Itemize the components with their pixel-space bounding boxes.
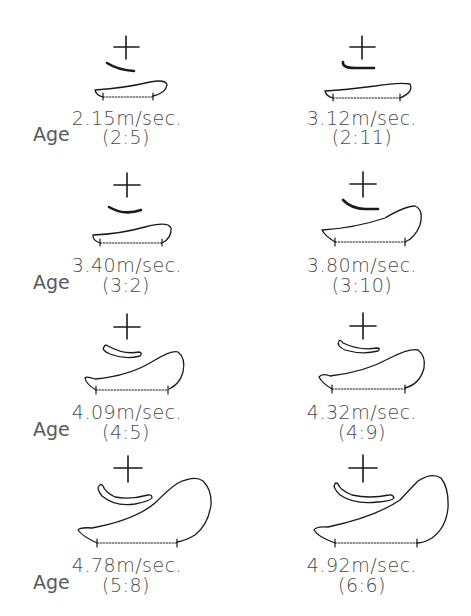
cross-icon	[350, 36, 375, 59]
speed-label: 4.32m/sec.	[307, 402, 417, 422]
age-value: (3:10)	[332, 275, 393, 295]
body-outline-icon	[93, 224, 171, 243]
age-value: (2:11)	[332, 127, 393, 147]
age-value: (3:2)	[102, 275, 150, 295]
panel-4-drawing	[322, 172, 421, 246]
age-value: (6:6)	[338, 575, 386, 595]
body-outline-icon	[325, 83, 411, 98]
cross-icon	[350, 172, 376, 197]
panel-6-drawing	[319, 313, 424, 393]
age-value: (5:8)	[102, 575, 150, 595]
tongue-stroke-icon	[98, 485, 152, 505]
cross-icon	[349, 455, 377, 482]
speed-label: 2.15m/sec.	[72, 108, 182, 128]
panel-8-drawing	[314, 455, 448, 547]
panel-3-drawing	[93, 173, 171, 246]
tongue-stroke-icon	[343, 62, 374, 68]
tongue-stroke-icon	[338, 340, 379, 352]
age-value: (4:5)	[102, 422, 150, 442]
tongue-stroke-icon	[109, 207, 141, 212]
tongue-stroke-icon	[107, 63, 134, 71]
speed-label: 4.92m/sec.	[307, 555, 417, 575]
age-label: Age	[33, 272, 70, 292]
cross-icon	[350, 313, 376, 339]
panel-2-drawing	[325, 36, 411, 101]
tongue-stroke-icon	[334, 483, 394, 503]
age-label: Age	[33, 419, 70, 439]
speed-label: 4.78m/sec.	[72, 555, 182, 575]
age-label: Age	[33, 572, 70, 592]
body-outline-icon	[319, 350, 424, 389]
age-label: Age	[33, 124, 70, 144]
speed-label: 4.09m/sec.	[72, 402, 182, 422]
panel-1-drawing	[95, 36, 167, 100]
age-value: (4:9)	[338, 422, 386, 442]
speed-label: 3.40m/sec.	[72, 255, 182, 275]
cross-icon	[114, 173, 140, 197]
panel-5-drawing	[85, 314, 184, 394]
tongue-stroke-icon	[343, 200, 378, 209]
cross-icon	[114, 314, 140, 339]
panel-7-drawing	[78, 456, 211, 547]
body-outline-icon	[322, 206, 421, 242]
body-outline-icon	[95, 81, 167, 97]
cross-icon	[114, 456, 142, 482]
drawings-canvas	[0, 0, 471, 616]
cross-icon	[114, 36, 139, 59]
speed-label: 3.80m/sec.	[307, 255, 417, 275]
tongue-stroke-icon	[103, 345, 141, 357]
age-value: (2:5)	[102, 127, 150, 147]
diagram-stage: 2.15m/sec. (2:5) Age 3.12m/sec. (2:11) 3…	[0, 0, 471, 616]
speed-label: 3.12m/sec.	[307, 108, 417, 128]
